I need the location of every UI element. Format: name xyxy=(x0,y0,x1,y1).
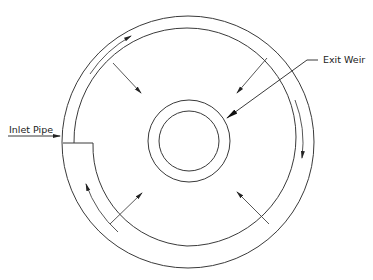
channel-flow-arrow-top-left xyxy=(90,36,131,74)
inlet-pipe-label: Inlet Pipe xyxy=(9,124,53,135)
exit-weir-ring-inner xyxy=(159,111,219,171)
exit-weir-ring-outer xyxy=(148,100,230,182)
radial-flow-arrow-upper-left xyxy=(113,63,141,93)
clarifier-diagram: Inlet Pipe Exit Weir xyxy=(0,0,373,280)
outer-tank-wall xyxy=(62,16,314,268)
exit-weir-label: Exit Weir xyxy=(323,54,365,65)
radial-flow-arrow-lower-right xyxy=(237,192,269,224)
inner-spiral-baffle xyxy=(74,28,296,246)
channel-flow-arrow-bottom-left xyxy=(86,184,118,232)
radial-flow-arrow-upper-right xyxy=(237,58,267,93)
